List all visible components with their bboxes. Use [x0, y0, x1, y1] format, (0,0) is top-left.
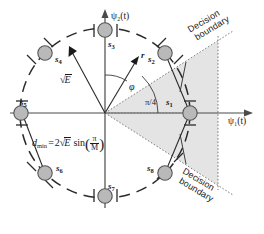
axis-psi2-arrowhead — [102, 9, 109, 18]
dmin-sin-function: sin — [73, 137, 85, 148]
point-label-s4: s4 — [55, 55, 62, 66]
dmin-frac-denominator: M — [90, 144, 99, 152]
point-label-s7: s7 — [108, 182, 115, 193]
axis-label-psi1: ψ₁(t) — [228, 117, 246, 127]
r-vector-arrowhead — [131, 56, 140, 65]
point-label-s6: s6 — [56, 164, 63, 175]
point-s6[interactable] — [38, 166, 52, 180]
point-s3[interactable] — [98, 23, 112, 37]
point-s2[interactable] — [158, 46, 172, 60]
point-label-s6-sub: 6 — [60, 167, 63, 174]
sqrt-e-radius-line — [72, 52, 105, 113]
point-label-s2: s2 — [148, 55, 155, 66]
point-label-s3-sub: 3 — [112, 43, 115, 50]
energy-symbol: E — [65, 74, 71, 85]
point-label-s1-sub: 1 — [170, 101, 173, 108]
point-s1[interactable] — [183, 106, 197, 120]
phi-angle-arc — [105, 75, 127, 81]
point-label-s8: s8 — [147, 164, 154, 175]
sector-angle-label: π/4 — [145, 98, 156, 107]
sqrt-e-arrowhead — [69, 46, 78, 57]
point-label-s1: s1 — [166, 98, 173, 109]
dmin-fraction: πM — [90, 135, 99, 153]
received-vector-label: r — [141, 51, 145, 60]
point-label-s8-sub: 8 — [151, 167, 154, 174]
axis-label-psi2: ψ₂(t) — [111, 12, 129, 22]
point-label-s5: s5 — [20, 98, 27, 109]
point-s8[interactable] — [158, 166, 172, 180]
point-label-s2-sub: 2 — [152, 58, 155, 65]
dmin-energy-symbol: E — [64, 137, 70, 148]
point-label-s4-sub: 4 — [59, 58, 62, 65]
point-s4[interactable] — [38, 46, 52, 60]
point-label-s5-sub: 5 — [24, 101, 27, 108]
psk-constellation-figure: ψ₁(t) ψ₂(t) s1 s2 s3 s4 s5 s6 s7 s8 √E r… — [0, 0, 264, 234]
dmin-right-paren: ) — [99, 136, 104, 152]
point-label-s3: s3 — [108, 40, 115, 51]
point-label-s7-sub: 7 — [112, 185, 115, 192]
dmin-subscript: min — [37, 142, 47, 149]
dmin-formula: dmin=2√Esin(πM) — [32, 135, 104, 153]
sqrt-energy-label: √E — [60, 74, 72, 85]
dmin-equals-sign: = — [48, 137, 54, 148]
phase-angle-label: φ — [129, 82, 135, 92]
